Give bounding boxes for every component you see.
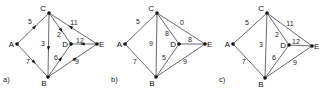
node-B	[263, 76, 267, 80]
edge-weight: 6	[54, 54, 58, 61]
edge-weight: 7	[26, 58, 30, 65]
edge-weight: 12	[76, 37, 84, 44]
edge-weight: 5	[136, 18, 140, 25]
node-label-D: D	[280, 41, 286, 50]
graph-panel-c: 5732111269ACBDEc)	[219, 4, 319, 89]
node-label-E: E	[207, 40, 212, 49]
node-label-A: A	[117, 40, 123, 49]
node-B	[154, 75, 158, 79]
edge-weight: 5	[245, 19, 249, 26]
node-D	[287, 43, 291, 47]
node-label-B: B	[41, 79, 46, 88]
node-D	[69, 42, 73, 46]
edge-weight: 9	[75, 58, 79, 65]
node-label-D: D	[62, 40, 68, 49]
node-label-C: C	[148, 4, 154, 13]
panel-caption: b)	[111, 75, 118, 84]
graph-panel-a: 5732111269ACBDEa)	[3, 4, 104, 88]
arrow-icon	[47, 46, 50, 51]
edge-weight: 7	[242, 58, 246, 65]
edge-C-B	[156, 13, 157, 77]
edge-weight: 3	[41, 40, 45, 47]
edge-E-C	[49, 13, 97, 44]
node-label-A: A	[9, 40, 15, 49]
edge-A-B	[125, 44, 156, 77]
node-A	[123, 42, 127, 46]
edge-weight: 8	[188, 36, 192, 43]
node-C	[155, 11, 159, 15]
edge-weight: 0	[180, 19, 184, 26]
edge-A-C	[233, 13, 267, 44]
edge-weight: 2	[57, 31, 61, 38]
panel-caption: a)	[3, 75, 10, 84]
edge-weight: 6	[272, 54, 276, 61]
node-D	[177, 42, 181, 46]
edge-weight: 5	[28, 18, 32, 25]
edge-C-E	[267, 13, 312, 46]
arrow-icon	[68, 26, 73, 30]
node-label-B: B	[258, 80, 263, 89]
edge-A-B	[17, 44, 48, 77]
edge-weight: 8	[165, 30, 169, 37]
node-label-E: E	[314, 42, 319, 51]
node-label-C: C	[258, 4, 264, 13]
node-label-D: D	[170, 40, 176, 49]
graph-panel-b: 57980859ACBDEb)	[111, 4, 212, 88]
node-A	[231, 42, 235, 46]
node-label-C: C	[40, 4, 46, 13]
node-label-B: B	[149, 79, 154, 88]
edge-weight: 9	[149, 40, 153, 47]
graph-diagrams: 5732111269ACBDEa)57980859ACBDEb)57321112…	[0, 0, 326, 93]
edge-weight: 9	[183, 58, 187, 65]
edge-weight: 5	[162, 54, 166, 61]
node-label-A: A	[225, 40, 231, 49]
edge-A-B	[233, 44, 265, 78]
edge-C-B	[48, 13, 49, 77]
edge-weight: 7	[133, 58, 137, 65]
node-label-E: E	[99, 40, 104, 49]
node-B	[46, 75, 50, 79]
arrow-icon	[58, 57, 62, 62]
node-C	[265, 11, 269, 15]
edge-weight: 3	[259, 41, 263, 48]
edge-weight: 9	[293, 59, 297, 66]
panel-caption: c)	[219, 75, 226, 84]
node-C	[47, 11, 51, 15]
edge-B-E	[265, 46, 312, 78]
edge-weight: 11	[286, 20, 293, 27]
edge-weight: 2	[275, 31, 279, 38]
edge-D-E	[289, 45, 312, 46]
node-A	[15, 42, 19, 46]
edge-weight: 11	[70, 19, 77, 26]
edge-C-B	[265, 13, 267, 78]
edge-weight: 12	[292, 38, 300, 45]
edge-C-E	[157, 13, 205, 44]
